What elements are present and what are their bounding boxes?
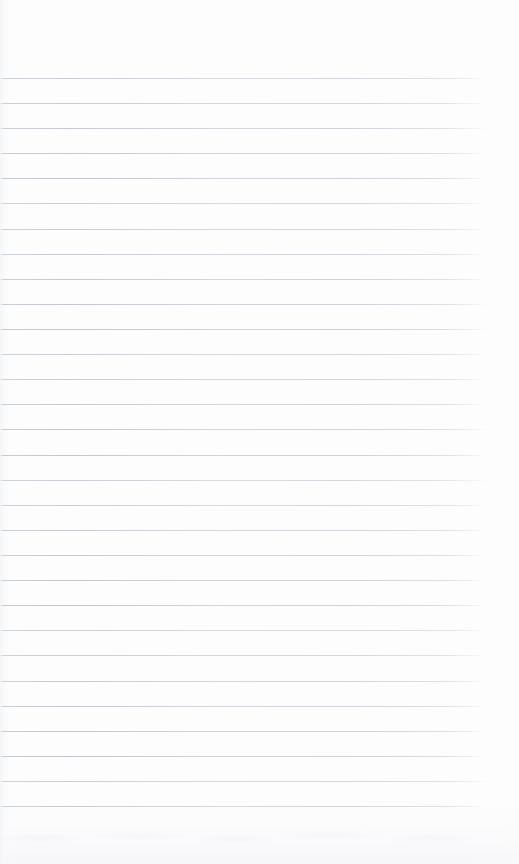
writing-area[interactable]	[0, 78, 486, 806]
notebook-page	[0, 0, 519, 864]
page-bottom-scan-artifact	[0, 824, 519, 864]
rule-line	[0, 806, 486, 807]
